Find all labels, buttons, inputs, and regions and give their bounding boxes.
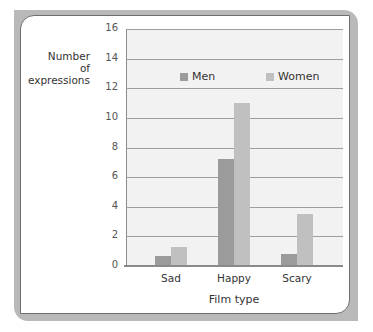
gridline <box>126 29 343 30</box>
x-axis-label: Film type <box>194 293 274 306</box>
y-tick-label: 2 <box>98 229 118 240</box>
y-tick-label: 6 <box>98 170 118 181</box>
x-axis-line <box>124 265 343 267</box>
legend-swatch-women <box>266 73 274 81</box>
x-tick-label: Scary <box>272 272 322 284</box>
y-tick-label: 14 <box>98 52 118 63</box>
legend-item-men: Men <box>180 70 215 83</box>
legend-swatch-men <box>180 73 188 81</box>
y-tick-label: 0 <box>98 259 118 270</box>
x-tick-label: Happy <box>209 272 259 284</box>
y-axis-label-line: Number <box>26 50 90 62</box>
y-axis-label: Number of expressions <box>26 50 90 86</box>
legend-label-men: Men <box>192 70 215 83</box>
y-tick-label: 16 <box>98 22 118 33</box>
bar-women-scary <box>297 214 313 266</box>
y-tick-label: 8 <box>98 141 118 152</box>
y-tick-label: 4 <box>98 200 118 211</box>
y-tick-label: 10 <box>98 111 118 122</box>
y-tick-label: 12 <box>98 81 118 92</box>
legend-label-women: Women <box>278 70 319 83</box>
bar-men-happy <box>218 159 234 266</box>
x-tick-label: Sad <box>146 272 196 284</box>
gridline <box>126 88 343 89</box>
y-axis-label-line: of <box>26 62 90 74</box>
bar-women-sad <box>171 247 187 266</box>
bar-women-happy <box>234 103 250 266</box>
y-axis-label-line: expressions <box>26 74 90 86</box>
gridline <box>126 59 343 60</box>
legend-item-women: Women <box>266 70 319 83</box>
